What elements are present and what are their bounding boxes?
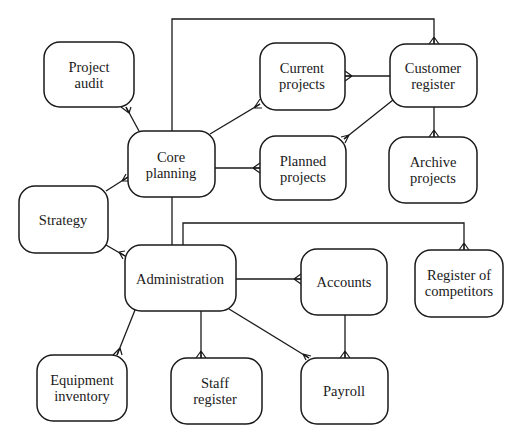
entity-customer-register: Customer register — [390, 44, 477, 107]
entity-label: projects — [410, 170, 456, 186]
entity-accounts: Accounts — [301, 249, 387, 315]
entity-label: Administration — [136, 271, 225, 287]
entity-planned-projects: Planned projects — [260, 136, 346, 200]
entity-label: Staff — [201, 375, 229, 391]
edge-customer-register-planned-projects — [344, 100, 393, 139]
entity-label: projects — [280, 169, 326, 185]
entity-register-of-competitors: Register of competitors — [415, 250, 503, 317]
entity-administration: Administration — [125, 245, 236, 311]
entity-label: Register of — [427, 267, 491, 283]
entity-label: Current — [280, 60, 324, 76]
edge-core-planning-current-projects — [210, 104, 260, 134]
entity-archive-projects: Archive projects — [389, 137, 477, 203]
entity-label: audit — [75, 75, 104, 91]
entity-label: planning — [146, 165, 197, 181]
entity-current-projects: Current projects — [260, 43, 345, 110]
entity-label: Archive — [410, 154, 457, 170]
entity-label: inventory — [54, 388, 110, 404]
entity-label: register — [193, 391, 237, 407]
entity-label: Project — [68, 59, 109, 75]
entity-label: Accounts — [317, 274, 372, 290]
crows-foot-icon — [113, 348, 122, 355]
entity-label: Strategy — [39, 212, 88, 228]
crows-foot-icon — [253, 163, 260, 173]
entity-payroll: Payroll — [301, 358, 388, 424]
entity-label: Equipment — [50, 372, 114, 388]
er-diagram: Project audit Core planning Strategy Cur… — [0, 0, 522, 445]
entity-label: competitors — [425, 283, 494, 299]
entity-strategy: Strategy — [19, 186, 108, 253]
entity-label: Customer — [405, 60, 462, 76]
entity-label: Payroll — [323, 383, 365, 399]
entity-label: Core — [157, 149, 185, 165]
entity-label: Planned — [280, 153, 327, 169]
entity-staff-register: Staff register — [171, 358, 262, 424]
entity-equipment-inventory: Equipment inventory — [37, 355, 127, 421]
crows-foot-icon — [121, 107, 131, 113]
entity-label: register — [411, 76, 455, 92]
entity-core-planning: Core planning — [128, 131, 215, 197]
crows-foot-icon — [294, 274, 301, 284]
edge-administration-payroll — [229, 309, 309, 358]
crows-foot-icon — [345, 71, 352, 81]
crows-foot-icon — [429, 130, 439, 137]
crows-foot-icon — [196, 351, 206, 358]
entity-project-audit: Project audit — [44, 42, 134, 107]
crows-foot-icon — [459, 243, 469, 250]
crows-foot-icon — [340, 351, 350, 358]
crows-foot-icon — [429, 37, 439, 44]
entity-label: projects — [279, 76, 325, 92]
